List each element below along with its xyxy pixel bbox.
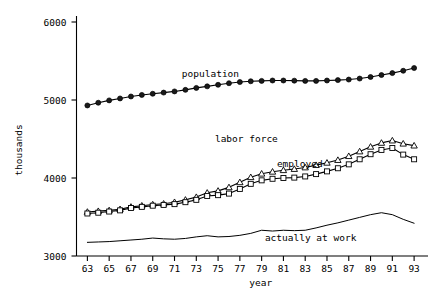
series-line [87, 68, 414, 105]
data-point-circle [128, 94, 133, 99]
data-point-circle [270, 78, 275, 83]
x-tick-label: 73 [191, 263, 202, 274]
data-point-circle [161, 90, 166, 95]
data-point-circle [259, 78, 264, 83]
series-label-population: population [182, 68, 239, 79]
x-axis-title: year [249, 277, 272, 288]
x-tick-label: 85 [321, 263, 332, 274]
data-point-circle [281, 78, 286, 83]
data-point-square [303, 174, 308, 179]
data-point-square [205, 193, 210, 198]
x-tick-label: 63 [82, 263, 93, 274]
data-point-circle [216, 82, 221, 87]
data-point-circle [292, 78, 297, 83]
data-point-square [183, 200, 188, 205]
data-point-triangle [237, 179, 243, 185]
data-point-circle [412, 66, 417, 71]
x-tick-label: 67 [125, 263, 136, 274]
data-point-square [357, 157, 362, 162]
y-tick-label: 5000 [44, 95, 67, 106]
series-label-employed: employed [277, 158, 323, 169]
data-point-triangle [226, 184, 232, 190]
data-point-square [390, 145, 395, 150]
chart-container: 3000400050006000636567697173757779818385… [0, 0, 437, 295]
data-point-square [237, 186, 242, 191]
series-line [87, 213, 414, 243]
data-point-circle [379, 73, 384, 78]
data-point-square [401, 152, 406, 157]
data-point-circle [150, 91, 155, 96]
data-point-circle [346, 77, 351, 82]
data-point-circle [314, 78, 319, 83]
data-point-circle [172, 89, 177, 94]
data-point-circle [357, 76, 362, 81]
chart-tick-labels: 3000400050006000636567697173757779818385… [44, 17, 420, 275]
data-point-circle [194, 85, 199, 90]
data-point-circle [118, 96, 123, 101]
data-point-circle [96, 100, 101, 105]
data-point-circle [303, 78, 308, 83]
chart-series-labels: populationlabor forceemployedactually at… [182, 68, 357, 242]
data-point-square [96, 210, 101, 215]
data-point-square [118, 208, 123, 213]
series-labor-force [84, 137, 417, 214]
data-point-square [379, 147, 384, 152]
y-tick-label: 4000 [44, 173, 67, 184]
data-point-square [259, 178, 264, 183]
data-point-triangle [389, 137, 395, 143]
data-point-square [281, 176, 286, 181]
data-point-square [194, 197, 199, 202]
data-point-square [150, 203, 155, 208]
data-point-square [248, 181, 253, 186]
x-tick-label: 81 [278, 263, 290, 274]
data-point-square [128, 206, 133, 211]
data-point-circle [205, 84, 210, 89]
series-line [87, 148, 414, 214]
x-tick-label: 87 [343, 263, 354, 274]
data-point-circle [183, 87, 188, 92]
data-point-square [314, 172, 319, 177]
data-point-circle [85, 103, 90, 108]
data-point-square [139, 204, 144, 209]
chart-series [84, 66, 417, 243]
data-point-square [324, 169, 329, 174]
line-chart: 3000400050006000636567697173757779818385… [0, 0, 437, 295]
data-point-circle [324, 78, 329, 83]
data-point-square [346, 162, 351, 167]
x-tick-label: 75 [212, 263, 223, 274]
x-tick-label: 91 [387, 263, 399, 274]
data-point-square [172, 202, 177, 207]
series-label-actually-at-work: actually at work [265, 232, 357, 243]
x-tick-label: 71 [169, 263, 181, 274]
series-actually-at-work [87, 213, 414, 243]
data-point-square [335, 166, 340, 171]
data-point-circle [139, 92, 144, 97]
data-point-circle [390, 71, 395, 76]
x-tick-label: 83 [299, 263, 310, 274]
x-tick-label: 89 [365, 263, 377, 274]
data-point-square [107, 209, 112, 214]
x-tick-label: 93 [408, 263, 419, 274]
x-tick-label: 79 [256, 263, 268, 274]
data-point-circle [401, 68, 406, 73]
data-point-square [270, 176, 275, 181]
y-axis-title: thousands [13, 124, 24, 175]
series-label-labor-force: labor force [215, 133, 278, 144]
data-point-square [85, 211, 90, 216]
series-employed [85, 145, 417, 216]
y-tick-label: 3000 [44, 251, 67, 262]
data-point-circle [248, 79, 253, 84]
x-tick-label: 69 [147, 263, 159, 274]
data-point-square [368, 152, 373, 157]
data-point-square [216, 193, 221, 198]
x-tick-label: 65 [103, 263, 114, 274]
series-population [85, 66, 417, 108]
data-point-square [292, 175, 297, 180]
data-point-circle [226, 81, 231, 86]
data-point-square [412, 157, 417, 162]
data-point-square [161, 202, 166, 207]
x-tick-label: 77 [234, 263, 245, 274]
data-point-circle [237, 80, 242, 85]
data-point-circle [335, 78, 340, 83]
y-tick-label: 6000 [44, 17, 67, 28]
